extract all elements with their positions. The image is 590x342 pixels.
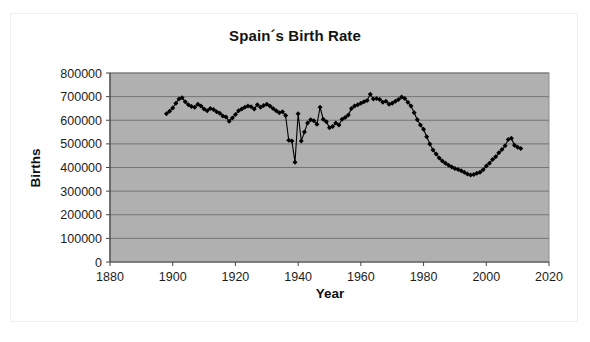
- y-axis-tick-label: 200000: [60, 208, 102, 222]
- y-axis-tick-labels: 0100000200000300000400000500000600000700…: [60, 67, 102, 270]
- y-axis-title: Births: [28, 148, 43, 187]
- x-axis-tick-label: 1940: [284, 270, 312, 284]
- y-axis-tick-label: 800000: [60, 67, 102, 81]
- x-axis-title: Year: [316, 286, 345, 301]
- chart-figure: Spain´s Birth Rate 010000020000030000040…: [0, 0, 590, 342]
- y-axis-tick-label: 500000: [60, 137, 102, 151]
- x-axis-tick-label: 1980: [410, 270, 438, 284]
- x-axis-tick-label: 2020: [535, 270, 563, 284]
- x-axis-tick-label: 1960: [347, 270, 375, 284]
- x-axis-tick-labels: 18801900192019401960198020002020: [96, 262, 563, 284]
- chart-plot: 0100000200000300000400000500000600000700…: [0, 0, 590, 342]
- x-axis-tick-label: 1900: [159, 270, 187, 284]
- x-axis-tick-label: 1920: [222, 270, 250, 284]
- x-axis-tick-label: 1880: [96, 270, 124, 284]
- y-axis-tick-label: 400000: [60, 161, 102, 175]
- y-axis-tick-label: 700000: [60, 90, 102, 104]
- x-axis-tick-label: 2000: [472, 270, 500, 284]
- y-axis-tick-label: 300000: [60, 185, 102, 199]
- y-axis-tick-label: 0: [95, 256, 102, 270]
- y-axis-tick-label: 100000: [60, 232, 102, 246]
- y-axis-tick-label: 600000: [60, 114, 102, 128]
